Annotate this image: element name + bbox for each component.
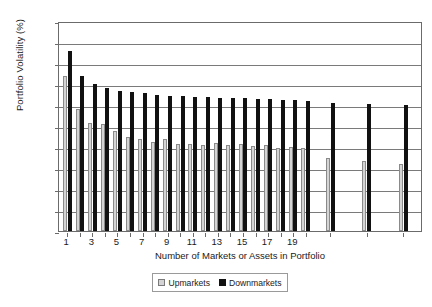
x-tick-label: 19 <box>280 236 304 247</box>
bar-downmarkets <box>155 95 159 232</box>
bar-upmarkets <box>76 109 80 231</box>
x-tick-label: 11 <box>180 236 204 247</box>
bar-downmarkets <box>118 91 122 231</box>
bar-downmarkets <box>80 76 84 231</box>
x-tick-mark <box>403 233 404 237</box>
bar-downmarkets <box>306 101 310 231</box>
x-tick-label: 3 <box>79 236 103 247</box>
bar-downmarkets <box>143 93 147 231</box>
bar-upmarkets <box>289 147 293 231</box>
x-tick-label: 9 <box>155 236 179 247</box>
legend-label-downmarkets: Downmarkets <box>229 278 282 288</box>
bar-upmarkets <box>326 158 330 232</box>
y-axis-title: Portfolio Volatility (%) <box>14 0 34 155</box>
bar-downmarkets <box>331 103 335 231</box>
bar-upmarkets <box>301 148 305 231</box>
plot-area <box>58 22 422 232</box>
bar-upmarkets <box>264 145 268 231</box>
bar-downmarkets <box>281 100 285 231</box>
bar-upmarkets <box>126 137 130 232</box>
bar-downmarkets <box>181 96 185 231</box>
bar-upmarkets <box>239 144 243 231</box>
bar-upmarkets <box>276 148 280 231</box>
bar-upmarkets <box>226 145 230 231</box>
legend-label-upmarkets: Upmarkets <box>168 278 210 288</box>
bar-upmarkets <box>188 144 192 231</box>
bar-downmarkets <box>105 88 109 231</box>
x-tick-label: 7 <box>130 236 154 247</box>
x-tick-label: 1 <box>54 236 78 247</box>
bar-downmarkets <box>231 98 235 231</box>
x-axis-title: Number of Markets or Assets in Portfolio <box>58 250 422 261</box>
bar-upmarkets <box>88 123 92 231</box>
bar-upmarkets <box>201 145 205 231</box>
bar-downmarkets <box>206 97 210 231</box>
bar-upmarkets <box>101 124 105 231</box>
bar-downmarkets <box>93 84 97 231</box>
bar-upmarkets <box>176 144 180 231</box>
bar-downmarkets <box>68 51 72 231</box>
x-tick-label: 5 <box>104 236 128 247</box>
bar-chart: Portfolio Volatility (%) 0.02.04.06.08.0… <box>0 0 432 307</box>
upmarkets-swatch-icon <box>158 279 165 286</box>
x-tick-mark <box>330 233 331 237</box>
x-tick-mark <box>367 233 368 237</box>
bar-downmarkets <box>367 104 371 231</box>
x-tick-label: 15 <box>230 236 254 247</box>
bar-downmarkets <box>193 97 197 231</box>
bar-downmarkets <box>218 98 222 231</box>
downmarkets-swatch-icon <box>219 279 226 286</box>
legend-item-downmarkets: Downmarkets <box>219 278 282 288</box>
bar-upmarkets <box>214 143 218 231</box>
bar-downmarkets <box>404 105 408 231</box>
chart-legend: Upmarkets Downmarkets <box>152 273 288 292</box>
bar-upmarkets <box>399 164 403 231</box>
legend-item-upmarkets: Upmarkets <box>158 278 210 288</box>
bar-upmarkets <box>163 139 167 231</box>
bar-downmarkets <box>256 99 260 231</box>
bar-upmarkets <box>138 139 142 231</box>
x-tick-mark <box>306 233 307 237</box>
bar-downmarkets <box>130 92 134 231</box>
bar-upmarkets <box>362 161 366 231</box>
bar-downmarkets <box>243 98 247 231</box>
bar-series-container <box>59 23 421 231</box>
bar-downmarkets <box>293 100 297 231</box>
bar-upmarkets <box>113 131 117 231</box>
x-tick-label: 13 <box>205 236 229 247</box>
bar-downmarkets <box>168 96 172 231</box>
bar-upmarkets <box>151 142 155 231</box>
y-tick-mark <box>55 233 59 234</box>
bar-upmarkets <box>251 146 255 231</box>
bar-upmarkets <box>63 76 67 231</box>
x-tick-label: 17 <box>255 236 279 247</box>
bar-downmarkets <box>268 99 272 231</box>
